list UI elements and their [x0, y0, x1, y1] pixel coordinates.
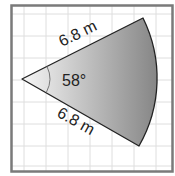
sector-diagram: 58° 6.8 m 6.8 m [0, 0, 175, 176]
angle-label: 58° [62, 72, 86, 89]
